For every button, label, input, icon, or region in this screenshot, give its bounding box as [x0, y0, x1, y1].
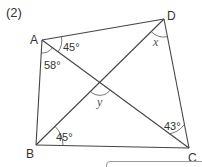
geometry-diagram: (2) A B C D 45° 58° 45° 43° x y — [0, 0, 202, 167]
arc-a-45 — [58, 37, 62, 52]
angle-label-b-45: 45° — [56, 131, 73, 143]
side-ba — [36, 40, 42, 145]
angle-label-d-x: x — [152, 35, 159, 49]
vertex-b-label: B — [26, 147, 34, 161]
angle-label-a-58: 58° — [44, 59, 61, 71]
angle-label-a-45: 45° — [63, 41, 80, 53]
vertex-d-label: D — [167, 9, 176, 23]
problem-number: (2) — [6, 5, 22, 20]
vertex-a-label: A — [30, 33, 38, 47]
arc-a-58 — [41, 48, 52, 53]
answer-input-box[interactable] — [106, 161, 202, 167]
angle-label-c-43: 43° — [164, 120, 181, 132]
angle-label-center-y: y — [96, 95, 103, 109]
side-cb — [36, 145, 189, 148]
